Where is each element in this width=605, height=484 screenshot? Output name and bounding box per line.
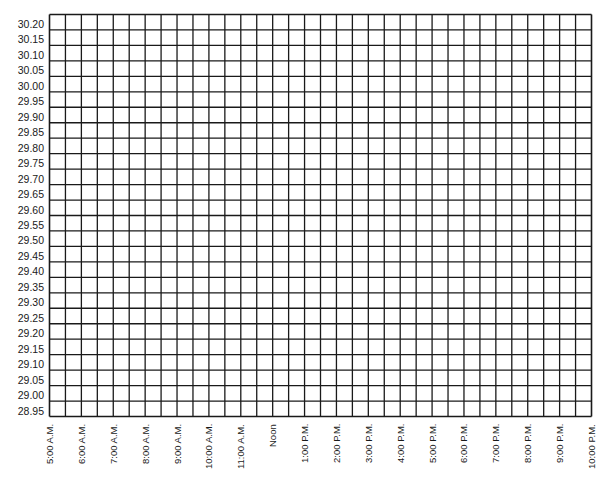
x-tick-label: 2:00 P.M. [331,424,342,463]
x-tick-label: 6:00 A.M. [76,424,87,464]
x-tick-label: 8:00 A.M. [140,424,151,464]
x-tick-label: Noon [267,424,278,447]
x-tick-label: 9:00 P.M. [554,424,565,463]
x-tick-label: 5:00 A.M. [44,424,55,464]
y-tick-label: 29.05 [0,374,44,386]
y-tick-label: 29.35 [0,281,44,293]
y-tick-label: 29.80 [0,142,44,154]
x-tick-label: 10:00 A.M. [203,424,214,469]
y-tick-label: 30.10 [0,49,44,61]
y-tick-label: 29.90 [0,111,44,123]
x-tick-label: 10:00 P.M. [586,424,597,469]
barometric-pressure-chart: 30.2030.1530.1030.0530.0029.9529.9029.85… [0,0,605,484]
y-tick-label: 29.20 [0,327,44,339]
x-tick-label: 11:00 A.M. [235,424,246,469]
y-tick-label: 29.60 [0,204,44,216]
x-tick-label: 9:00 A.M. [172,424,183,464]
y-tick-label: 29.75 [0,157,44,169]
x-tick-label: 4:00 P.M. [395,424,406,463]
x-tick-label: 6:00 P.M. [458,424,469,463]
y-tick-label: 29.70 [0,173,44,185]
y-tick-label: 29.85 [0,126,44,138]
y-tick-label: 29.55 [0,219,44,231]
x-tick-label: 7:00 A.M. [108,424,119,464]
y-tick-label: 29.95 [0,95,44,107]
y-tick-label: 29.25 [0,312,44,324]
y-tick-label: 29.50 [0,234,44,246]
x-tick-label: 1:00 P.M. [299,424,310,463]
y-tick-label: 30.20 [0,18,44,30]
y-tick-label: 29.30 [0,296,44,308]
x-tick-label: 7:00 P.M. [490,424,501,463]
y-tick-label: 30.05 [0,64,44,76]
y-tick-label: 29.00 [0,389,44,401]
x-tick-label: 3:00 P.M. [363,424,374,463]
y-tick-label: 29.10 [0,358,44,370]
x-tick-label: 8:00 P.M. [522,424,533,463]
y-tick-label: 30.00 [0,80,44,92]
y-tick-label: 28.95 [0,405,44,417]
y-tick-label: 29.15 [0,343,44,355]
x-tick-label: 5:00 P.M. [427,424,438,463]
y-tick-label: 29.65 [0,188,44,200]
y-tick-label: 29.45 [0,250,44,262]
y-tick-label: 29.40 [0,265,44,277]
chart-grid [0,0,605,484]
y-tick-label: 30.15 [0,33,44,45]
